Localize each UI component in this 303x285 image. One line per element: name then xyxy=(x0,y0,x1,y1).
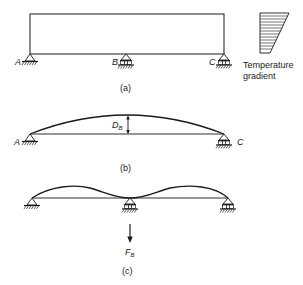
force-label: FB xyxy=(125,247,135,258)
roller-support-icon xyxy=(122,198,138,213)
figure-c: FB (c) xyxy=(24,186,236,276)
support-label-b: B xyxy=(112,57,118,67)
figure-caption-a: (a) xyxy=(120,83,131,93)
pin-support-icon xyxy=(22,54,38,65)
beam-diagram: A B C Temperature gradient (a) xyxy=(0,0,303,285)
pin-support-icon xyxy=(24,198,40,209)
roller-support-icon xyxy=(216,54,232,69)
support-label-c: C xyxy=(209,57,216,67)
roller-support-icon xyxy=(220,198,236,213)
support-label-c: C xyxy=(237,137,244,147)
figure-b: DB A C (b) xyxy=(13,115,244,173)
deflected-shape xyxy=(32,186,228,198)
pin-support-icon xyxy=(22,134,38,145)
support-label-a: A xyxy=(13,137,20,147)
beam-rectangle xyxy=(30,14,224,54)
deflection-arrow-icon xyxy=(126,116,130,135)
temperature-gradient-icon xyxy=(260,13,289,53)
gradient-label: Temperature xyxy=(243,60,294,70)
deflection-label: DB xyxy=(112,120,123,131)
roller-support-icon xyxy=(216,134,232,149)
support-label-a: A xyxy=(14,57,21,67)
figure-a: A B C Temperature gradient (a) xyxy=(14,13,294,93)
figure-caption-c: (c) xyxy=(122,266,133,276)
roller-support-icon xyxy=(118,54,134,69)
gradient-label: gradient xyxy=(243,71,276,81)
figure-caption-b: (b) xyxy=(120,163,131,173)
force-arrow-icon xyxy=(127,224,132,243)
